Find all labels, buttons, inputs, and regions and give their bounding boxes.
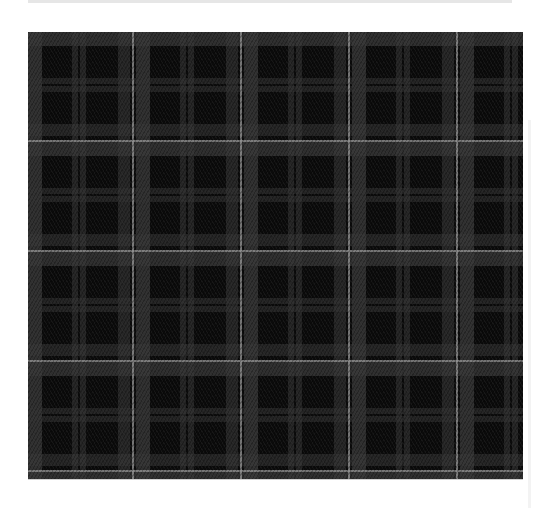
plaid-fabric-swatch: [28, 32, 523, 479]
twill-shadow-texture: [28, 32, 523, 479]
top-divider-bar: [28, 0, 512, 3]
right-edge-strip: [528, 120, 531, 508]
